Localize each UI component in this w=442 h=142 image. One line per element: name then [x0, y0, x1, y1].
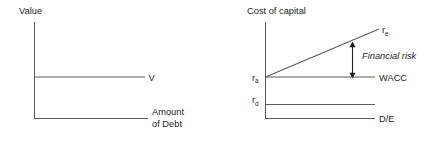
coc-label-re-sub: e: [385, 30, 389, 37]
coc-label-wacc: WACC: [379, 73, 407, 83]
value-panel-x-axis-label-line2: of Debt: [152, 119, 182, 129]
cost-of-capital-panel: Cost of capital re Financial risk WACC r…: [247, 6, 418, 124]
coc-panel-x-axis-label: D/E: [379, 114, 395, 124]
value-line-v-label: V: [149, 73, 156, 83]
financial-risk-arrow-head-up: [349, 42, 355, 48]
figure-canvas: Value V Amount of Debt: [0, 0, 442, 142]
coc-label-rd: rd: [252, 95, 259, 107]
value-panel: Value V Amount of Debt: [19, 6, 184, 129]
value-panel-y-axis-label: Value: [19, 6, 42, 16]
coc-label-rd-sub: d: [255, 100, 259, 107]
coc-label-re: re: [382, 25, 389, 37]
figure-root: Value V Amount of Debt: [0, 0, 442, 142]
coc-panel-y-axis-label: Cost of capital: [247, 6, 306, 16]
financial-risk-arrow-head-down: [349, 73, 355, 79]
financial-risk-double-arrow: [349, 42, 355, 79]
coc-label-ra: ra: [252, 73, 259, 85]
coc-annotation-financial-risk: Financial risk: [362, 51, 418, 61]
value-panel-x-axis-label-line1: Amount: [152, 107, 184, 117]
coc-label-ra-sub: a: [255, 77, 259, 84]
